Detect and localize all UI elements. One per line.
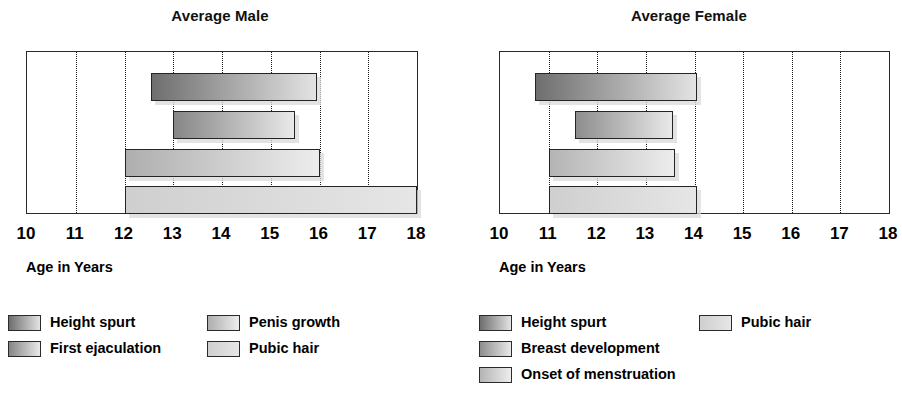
female-plot-area (499, 51, 890, 214)
female-chart-title: Average Female (489, 7, 889, 24)
legend-item: Onset of menstruation (479, 364, 676, 385)
legend-item: Penis growth (207, 312, 340, 333)
x-tick-label: 17 (830, 224, 849, 244)
legend-item-label: Height spurt (521, 315, 606, 330)
gridline (76, 52, 77, 213)
x-tick-label: 10 (17, 224, 36, 244)
male-legend: Height spurtPenis growthFirst ejaculatio… (0, 306, 451, 402)
bar-breast-development (575, 111, 672, 139)
bar-fill (151, 73, 317, 101)
legend-swatch-icon (207, 341, 240, 357)
male-x-axis-title: Age in Years (26, 259, 113, 275)
male-plot-area (26, 51, 418, 214)
x-tick-label: 11 (66, 224, 84, 244)
male-x-axis-ticks: 101112131415161718 (26, 224, 418, 248)
legend-swatch-icon (8, 315, 41, 331)
puberty-timeline-figure: Average Male 101112131415161718 Age in Y… (0, 0, 902, 409)
x-tick-label: 16 (309, 224, 328, 244)
x-tick-label: 13 (163, 224, 182, 244)
bar-height-spurt (535, 73, 697, 101)
bar-fill (575, 111, 672, 139)
female-legend: Height spurtPubic hairBreast development… (451, 306, 902, 402)
male-chart-panel: Average Male 101112131415161718 Age in Y… (0, 0, 451, 409)
legend-item-label: Breast development (521, 341, 660, 356)
bar-fill (125, 186, 418, 214)
legend-item-label: First ejaculation (50, 341, 161, 356)
bar-fill (549, 149, 675, 177)
bar-fill (549, 186, 698, 214)
legend-item: First ejaculation (8, 338, 161, 359)
x-tick-label: 14 (212, 224, 231, 244)
legend-item-label: Pubic hair (741, 315, 811, 330)
bar-first-ejaculation (173, 111, 295, 139)
x-tick-label: 17 (358, 224, 377, 244)
bar-fill (535, 73, 697, 101)
legend-swatch-icon (207, 315, 240, 331)
gridline (792, 52, 793, 213)
legend-item: Height spurt (8, 312, 135, 333)
female-chart-panel: Average Female 101112131415161718 Age in… (451, 0, 902, 409)
legend-item: Pubic hair (207, 338, 319, 359)
gridline (840, 52, 841, 213)
x-tick-label: 15 (733, 224, 752, 244)
x-tick-label: 12 (114, 224, 133, 244)
male-chart-title: Average Male (0, 7, 440, 24)
legend-item-label: Height spurt (50, 315, 135, 330)
bar-fill (173, 111, 295, 139)
x-tick-label: 16 (781, 224, 800, 244)
legend-swatch-icon (8, 341, 41, 357)
legend-item: Breast development (479, 338, 660, 359)
legend-item-label: Onset of menstruation (521, 367, 676, 382)
bar-penis-growth (125, 149, 320, 177)
female-x-axis-title: Age in Years (499, 259, 586, 275)
legend-swatch-icon (699, 315, 732, 331)
bar-pubic-hair (549, 186, 698, 214)
bar-pubic-hair (125, 186, 418, 214)
legend-item-label: Pubic hair (249, 341, 319, 356)
legend-swatch-icon (479, 341, 512, 357)
female-x-axis-ticks: 101112131415161718 (499, 224, 890, 248)
x-tick-label: 10 (490, 224, 509, 244)
x-tick-label: 14 (684, 224, 703, 244)
x-tick-label: 15 (260, 224, 279, 244)
bar-onset-of-menstruation (549, 149, 675, 177)
x-tick-label: 13 (635, 224, 654, 244)
x-tick-label: 18 (879, 224, 898, 244)
legend-item-label: Penis growth (249, 315, 340, 330)
bar-fill (125, 149, 320, 177)
x-tick-label: 11 (539, 224, 557, 244)
x-tick-label: 18 (407, 224, 426, 244)
bar-height-spurt (151, 73, 317, 101)
legend-swatch-icon (479, 367, 512, 383)
x-tick-label: 12 (587, 224, 606, 244)
legend-item: Pubic hair (699, 312, 811, 333)
legend-swatch-icon (479, 315, 512, 331)
legend-item: Height spurt (479, 312, 606, 333)
gridline (743, 52, 744, 213)
